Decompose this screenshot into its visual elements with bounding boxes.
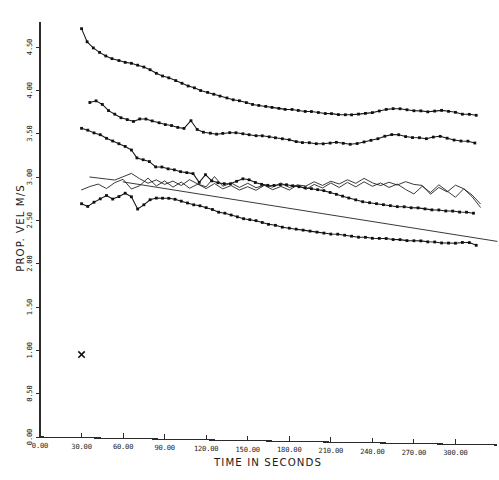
series-data-point bbox=[404, 135, 407, 138]
series-data-point bbox=[241, 177, 244, 180]
series-data-point bbox=[392, 107, 395, 110]
series-data-point bbox=[453, 139, 456, 142]
series-data-point bbox=[396, 205, 399, 208]
series-data-point bbox=[212, 93, 215, 96]
series-data-point bbox=[364, 112, 367, 115]
series-data-point bbox=[104, 55, 107, 58]
series-data-point bbox=[329, 233, 332, 236]
series-data-point bbox=[223, 182, 226, 185]
series-data-point bbox=[337, 113, 340, 116]
series-data-point bbox=[426, 110, 429, 113]
series-data-point bbox=[468, 113, 471, 116]
series-data-point bbox=[93, 201, 96, 204]
series-data-point bbox=[447, 242, 450, 245]
series-data-point bbox=[105, 194, 108, 197]
series-data-point bbox=[465, 211, 468, 214]
series-data-point bbox=[432, 136, 435, 139]
series-data-point bbox=[151, 120, 154, 123]
series-data-point bbox=[181, 82, 184, 85]
series-data-point bbox=[170, 124, 173, 127]
series-data-point bbox=[93, 131, 96, 134]
series-line bbox=[82, 178, 481, 204]
series-data-point bbox=[173, 168, 176, 171]
series-data-point bbox=[329, 191, 332, 194]
series-data-point bbox=[295, 228, 298, 231]
series-data-point bbox=[271, 106, 274, 109]
x-axis-line bbox=[40, 437, 497, 445]
series-data-point bbox=[238, 99, 241, 102]
x-tick-label: 180.00 bbox=[277, 445, 301, 454]
series-data-point bbox=[186, 202, 189, 205]
series-run-4-lower bbox=[80, 192, 477, 247]
series-data-point bbox=[461, 113, 464, 116]
series-data-point bbox=[111, 57, 114, 60]
series-data-point bbox=[344, 113, 347, 116]
series-data-point bbox=[383, 135, 386, 138]
series-data-point bbox=[105, 137, 108, 140]
series-data-point bbox=[132, 120, 135, 123]
series-data-point bbox=[187, 85, 190, 88]
series-data-point bbox=[167, 197, 170, 200]
series-data-point bbox=[350, 235, 353, 238]
series-data-point bbox=[295, 140, 298, 143]
series-data-point bbox=[322, 142, 325, 145]
series-data-point bbox=[274, 136, 277, 139]
series-data-point bbox=[354, 198, 357, 201]
series-data-point bbox=[261, 134, 264, 137]
series-data-point bbox=[336, 233, 339, 236]
data-series-group bbox=[80, 27, 497, 246]
series-run-3-mid bbox=[80, 127, 475, 215]
x-tick-label: 270.00 bbox=[402, 448, 426, 457]
series-data-point bbox=[413, 109, 416, 112]
series-data-point bbox=[475, 114, 478, 117]
series-data-point bbox=[431, 208, 434, 211]
y-tick-label: 2.00 bbox=[25, 256, 34, 272]
series-data-point bbox=[111, 140, 114, 143]
series-data-point bbox=[183, 127, 186, 130]
x-tick-label: 90.00 bbox=[154, 443, 174, 452]
series-data-point bbox=[281, 137, 284, 140]
x-tick-label: 0.00 bbox=[32, 441, 48, 450]
series-data-point bbox=[124, 192, 127, 195]
y-tick-label: 1.50 bbox=[25, 299, 34, 315]
series-data-point bbox=[472, 212, 475, 215]
x-tick-label: 150.00 bbox=[236, 445, 260, 454]
series-data-point bbox=[322, 189, 325, 192]
series-data-point bbox=[205, 206, 208, 209]
series-data-point bbox=[236, 215, 239, 218]
series-data-point bbox=[397, 133, 400, 136]
series-data-point bbox=[164, 123, 167, 126]
series-data-point bbox=[260, 183, 263, 186]
series-data-point bbox=[136, 64, 139, 67]
series-data-point bbox=[424, 207, 427, 210]
x-axis-title: TIME IN SECONDS bbox=[213, 457, 322, 468]
series-data-point bbox=[297, 109, 300, 112]
series-data-point bbox=[130, 62, 133, 65]
series-data-point bbox=[99, 197, 102, 200]
series-data-point bbox=[136, 208, 139, 211]
series-data-point bbox=[385, 237, 388, 240]
series-data-point bbox=[304, 110, 307, 113]
y-tick-label: 1.00 bbox=[25, 342, 34, 358]
series-data-point bbox=[370, 139, 373, 142]
series-data-point bbox=[418, 136, 421, 139]
series-data-point bbox=[461, 241, 464, 244]
outlier-x-marker bbox=[78, 351, 84, 357]
series-data-point bbox=[95, 99, 98, 102]
series-data-point bbox=[176, 126, 179, 129]
y-axis-ticks: 0.000.501.001.502.002.503.003.504.004.50 bbox=[25, 39, 40, 445]
series-data-point bbox=[419, 239, 422, 242]
series-data-point bbox=[174, 198, 177, 201]
series-run-1-upper bbox=[80, 27, 477, 116]
series-data-point bbox=[349, 143, 352, 146]
series-data-point bbox=[439, 135, 442, 138]
y-tick-label: 3.00 bbox=[25, 169, 34, 185]
series-data-point bbox=[364, 236, 367, 239]
series-data-point bbox=[324, 112, 327, 115]
series-data-point bbox=[86, 205, 89, 208]
series-data-point bbox=[118, 59, 121, 62]
series-data-point bbox=[223, 212, 226, 215]
series-data-point bbox=[86, 40, 89, 43]
series-data-point bbox=[167, 76, 170, 79]
series-data-point bbox=[316, 231, 319, 234]
